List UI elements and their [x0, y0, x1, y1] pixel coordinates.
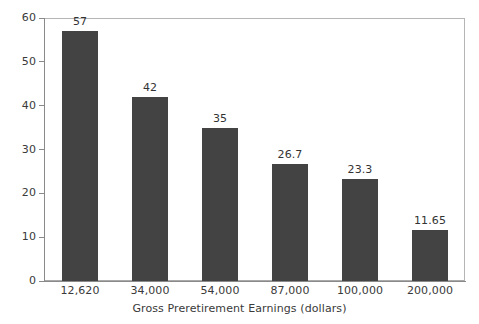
bars-layer: 57423526.723.311.65	[45, 19, 465, 281]
y-axis-tick-label: 30	[22, 144, 36, 156]
bar-value-label: 11.65	[414, 214, 446, 227]
y-axis-tick-mark	[39, 237, 44, 238]
y-axis-tick-mark	[39, 193, 44, 194]
bar-value-label: 26.7	[278, 148, 303, 161]
bar	[342, 179, 378, 281]
bar-value-label: 23.3	[348, 163, 373, 176]
bar	[62, 31, 98, 281]
bar-group: 57	[62, 19, 98, 281]
bar	[202, 128, 238, 281]
y-axis-tick-label: 20	[22, 187, 36, 199]
x-axis-tick-label: 200,000	[407, 284, 453, 297]
bar-group: 35	[202, 19, 238, 281]
bar-group: 11.65	[412, 19, 448, 281]
y-axis-tick-mark	[39, 105, 44, 106]
bar-group: 26.7	[272, 19, 308, 281]
x-axis-line	[44, 281, 466, 282]
bar	[272, 164, 308, 281]
bar-chart: 0102030405060 57423526.723.311.65 12,620…	[0, 0, 479, 324]
bar-value-label: 57	[73, 15, 87, 28]
bar-value-label: 42	[143, 81, 157, 94]
bar-value-label: 35	[213, 112, 227, 125]
y-axis-tick-mark	[39, 149, 44, 150]
y-axis-tick-label: 50	[22, 56, 36, 68]
x-axis-tick-label: 100,000	[337, 284, 383, 297]
x-axis-title: Gross Preretirement Earnings (dollars)	[0, 302, 479, 315]
y-axis-tick-mark	[39, 18, 44, 19]
x-axis-tick-label: 87,000	[270, 284, 309, 297]
bar	[412, 230, 448, 281]
y-axis-tick-label: 40	[22, 100, 36, 112]
y-axis-tick-label: 60	[22, 12, 36, 24]
x-axis-tick-label: 54,000	[200, 284, 239, 297]
x-axis-tick-label: 34,000	[130, 284, 169, 297]
x-axis: 12,62034,00054,00087,000100,000200,000	[45, 284, 465, 302]
y-axis-tick-mark	[39, 281, 44, 282]
y-axis-tick-label: 0	[29, 275, 36, 287]
bar	[132, 97, 168, 281]
y-axis-tick-label: 10	[22, 231, 36, 243]
x-axis-tick-label: 12,620	[60, 284, 99, 297]
y-axis: 0102030405060	[0, 0, 44, 324]
bar-group: 23.3	[342, 19, 378, 281]
bar-group: 42	[132, 19, 168, 281]
y-axis-tick-mark	[39, 61, 44, 62]
